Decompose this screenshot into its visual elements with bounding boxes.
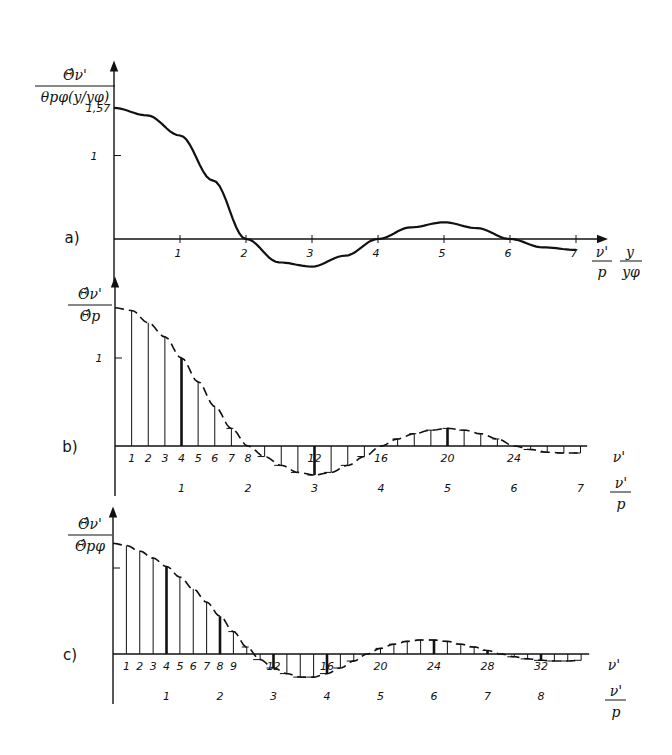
x-tick-label: 7: [577, 482, 584, 495]
x-tick-label: 4: [373, 247, 380, 260]
x-axis-label-2: yφ: [621, 264, 640, 280]
index-tick-label: 5: [195, 452, 202, 465]
x-tick-label: 6: [511, 482, 518, 495]
index-tick-label: 9: [230, 660, 237, 673]
x-tick-label: 8: [538, 690, 545, 703]
panel-c: 12345678912162024283212345678ν'ν'pc)Θ̂ν'…: [63, 512, 626, 720]
x-axis-label-2: y: [625, 244, 635, 260]
figure: 123456711,57a)Θ̂ν'θpφ(y/yφ)ν'pyyφ1234567…: [0, 0, 672, 755]
x-tick-label: 2: [241, 247, 248, 260]
x-axis-label: p: [612, 704, 621, 720]
index-tick-label: 20: [374, 660, 388, 673]
x-tick-label: 7: [484, 690, 491, 703]
y-axis-label-denominator: θpφ(y/yφ): [41, 89, 109, 105]
index-tick-label: 20: [441, 452, 455, 465]
y-axis-label-numerator: Θ̂ν': [78, 286, 102, 302]
y-tick-label: 1: [91, 150, 98, 163]
curve: [114, 108, 576, 267]
index-tick-label: 4: [178, 452, 185, 465]
x-axis-label: p: [617, 496, 626, 512]
index-tick-label: 12: [308, 452, 322, 465]
x-tick-label: 1: [175, 247, 182, 260]
y-axis-label-numerator: Θ̂ν': [78, 516, 102, 532]
panel-b: 12345678121620241234567ν'ν'pb)Θ̂ν'Θ̂p1: [62, 282, 631, 512]
index-tick-label: 24: [427, 660, 441, 673]
index-tick-label: 6: [211, 452, 218, 465]
x-axis-label: ν': [610, 683, 622, 699]
index-tick-label: 16: [320, 660, 334, 673]
x-tick-label: 2: [217, 690, 224, 703]
panel-label: c): [63, 646, 77, 664]
index-tick-label: 4: [163, 660, 170, 673]
index-axis-label: ν': [608, 657, 620, 673]
index-axis-label: ν': [613, 449, 625, 465]
index-tick-label: 3: [161, 452, 168, 465]
index-tick-label: 1: [128, 452, 135, 465]
index-tick-label: 6: [190, 660, 197, 673]
index-tick-label: 3: [150, 660, 157, 673]
x-tick-label: 5: [377, 690, 384, 703]
x-tick-label: 3: [270, 690, 277, 703]
index-tick-label: 2: [145, 452, 152, 465]
y-axis-label-denominator: Θ̂pφ: [75, 538, 105, 554]
x-tick-label: 4: [378, 482, 385, 495]
index-tick-label: 8: [217, 660, 224, 673]
y-axis-label-denominator: Θ̂p: [80, 308, 100, 324]
y-axis-label-numerator: Θ̂ν': [63, 67, 87, 83]
x-tick-label: 6: [431, 690, 438, 703]
x-tick-label: 3: [311, 482, 318, 495]
index-tick-label: 7: [203, 660, 210, 673]
x-tick-label: 6: [505, 247, 512, 260]
x-axis-label: ν': [615, 475, 627, 491]
x-tick-label: 4: [324, 690, 331, 703]
x-tick-label: 3: [307, 247, 314, 260]
index-tick-label: 12: [267, 660, 281, 673]
x-tick-label: 1: [178, 482, 185, 495]
panel-label: b): [62, 438, 77, 456]
x-axis-label: ν': [596, 244, 608, 260]
index-tick-label: 1: [123, 660, 130, 673]
x-tick-label: 5: [444, 482, 451, 495]
index-tick-label: 16: [374, 452, 388, 465]
index-tick-label: 28: [481, 660, 495, 673]
index-tick-label: 8: [245, 452, 252, 465]
x-axis-label: p: [598, 264, 607, 280]
envelope-dashed: [115, 308, 578, 475]
index-tick-label: 32: [534, 660, 548, 673]
x-tick-label: 1: [163, 690, 170, 703]
index-tick-label: 7: [228, 452, 235, 465]
y-tick-label: 1: [96, 352, 103, 365]
panel-label: a): [64, 229, 79, 247]
x-tick-label: 2: [245, 482, 252, 495]
index-tick-label: 2: [136, 660, 143, 673]
panel-a: 123456711,57a)Θ̂ν'θpφ(y/yφ)ν'pyyφ: [35, 66, 642, 281]
index-tick-label: 24: [507, 452, 521, 465]
index-tick-label: 5: [176, 660, 183, 673]
x-tick-label: 5: [439, 247, 446, 260]
